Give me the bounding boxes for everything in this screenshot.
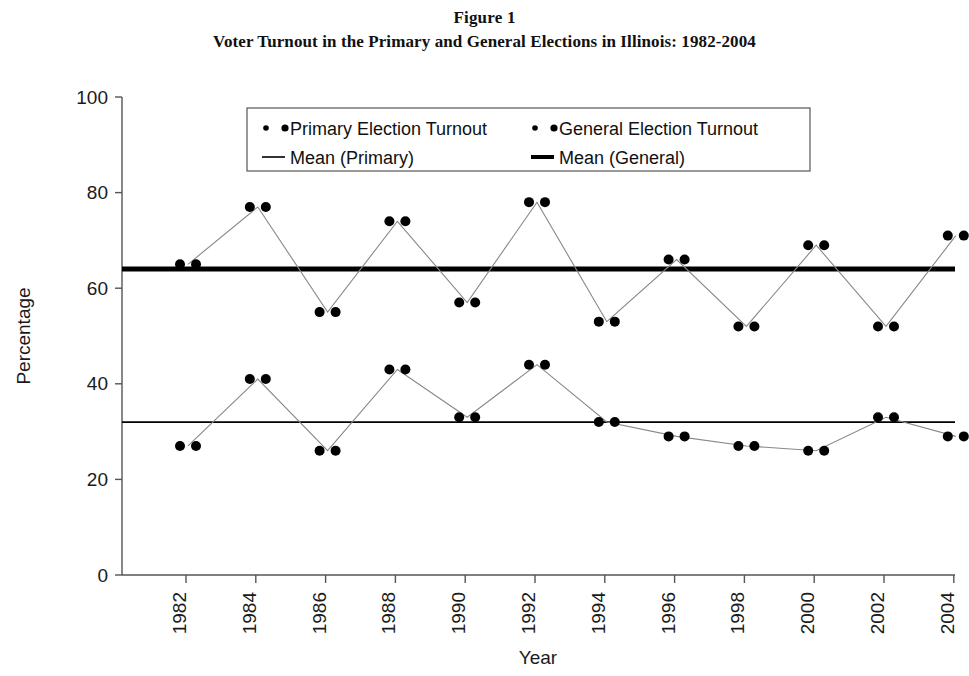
x-tick-label: 1998 — [727, 592, 748, 634]
data-point-marker — [524, 197, 534, 207]
mean-reference-lines — [122, 269, 955, 422]
legend-label-general-turnout: General Election Turnout — [559, 119, 758, 139]
data-point-marker — [454, 298, 464, 308]
data-point-marker — [959, 431, 969, 441]
data-point-marker — [889, 412, 899, 422]
data-point-marker — [245, 374, 255, 384]
data-point-marker — [610, 317, 620, 327]
data-point-marker — [175, 259, 185, 269]
x-tick-label: 1992 — [518, 592, 539, 634]
x-axis-title: Year — [519, 647, 558, 668]
data-point-marker — [959, 231, 969, 241]
data-point-marker — [873, 321, 883, 331]
data-point-marker — [315, 446, 325, 456]
x-tick-labels: 1982198419861988199019921994199619982000… — [169, 592, 958, 635]
legend-label-primary-turnout: Primary Election Turnout — [290, 119, 487, 139]
data-point-marker — [470, 412, 480, 422]
data-point-marker — [803, 446, 813, 456]
data-point-marker — [749, 441, 759, 451]
x-tick-label: 1984 — [239, 592, 260, 635]
chart-legend: Primary Election Turnout General Electio… — [247, 108, 810, 171]
x-tick-label: 1988 — [378, 592, 399, 634]
y-tick-label: 100 — [76, 87, 108, 108]
data-point-marker — [454, 412, 464, 422]
x-tick-label: 2002 — [867, 592, 888, 634]
x-tick-label: 1990 — [448, 592, 469, 634]
data-point-marker — [680, 255, 690, 265]
data-point-marker — [680, 431, 690, 441]
data-point-marker — [384, 364, 394, 374]
y-tick-label: 0 — [97, 565, 108, 586]
legend-label-mean-general: Mean (General) — [559, 148, 685, 168]
data-point-marker — [400, 364, 410, 374]
x-tick-label: 1996 — [658, 592, 679, 634]
data-point-marker — [245, 202, 255, 212]
data-point-marker — [803, 240, 813, 250]
data-point-marker — [470, 298, 480, 308]
data-point-marker — [540, 197, 550, 207]
data-point-marker — [819, 240, 829, 250]
y-axis-title: Percentage — [13, 287, 34, 384]
x-tick-label: 2000 — [797, 592, 818, 634]
data-point-marker — [191, 259, 201, 269]
data-point-marker — [610, 417, 620, 427]
y-tick-labels: 0 20 40 60 80 100 — [76, 87, 108, 586]
series-polyline — [188, 202, 956, 326]
y-tick-label: 20 — [87, 469, 108, 490]
data-point-marker — [331, 307, 341, 317]
data-point-marker — [733, 441, 743, 451]
data-point-marker — [819, 446, 829, 456]
data-point-marker — [524, 360, 534, 370]
data-point-marker — [594, 417, 604, 427]
y-tick-marks — [115, 97, 122, 575]
x-tick-marks — [186, 575, 954, 583]
y-tick-label: 60 — [87, 278, 108, 299]
y-tick-label: 80 — [87, 182, 108, 203]
series-lines — [188, 202, 956, 451]
figure-container: Figure 1 Voter Turnout in the Primary an… — [0, 0, 969, 676]
series-polyline — [188, 365, 956, 451]
data-point-marker — [261, 202, 271, 212]
data-point-marker — [733, 321, 743, 331]
data-point-marker — [749, 321, 759, 331]
data-point-marker — [191, 441, 201, 451]
data-point-marker — [175, 441, 185, 451]
data-point-marker — [943, 231, 953, 241]
data-point-marker — [400, 216, 410, 226]
data-point-marker — [384, 216, 394, 226]
chart-plot: 0 20 40 60 80 100 Percentage 19821984198… — [0, 0, 969, 676]
x-tick-label: 2004 — [937, 592, 958, 635]
data-point-marker — [873, 412, 883, 422]
data-point-marker — [943, 431, 953, 441]
x-tick-label: 1982 — [169, 592, 190, 634]
x-tick-label: 1994 — [588, 592, 609, 635]
x-tick-label: 1986 — [309, 592, 330, 634]
data-point-marker — [261, 374, 271, 384]
data-point-marker — [594, 317, 604, 327]
legend-label-mean-primary: Mean (Primary) — [290, 148, 414, 168]
y-tick-label: 40 — [87, 373, 108, 394]
data-point-marker — [315, 307, 325, 317]
data-point-marker — [664, 255, 674, 265]
data-point-marker — [540, 360, 550, 370]
data-point-marker — [889, 321, 899, 331]
data-point-marker — [664, 431, 674, 441]
data-point-marker — [331, 446, 341, 456]
